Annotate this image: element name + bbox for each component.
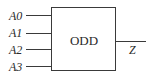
odd-parity-diagram: A0 A1 A2 A3 ODD Z [0,0,156,80]
block-label: ODD [51,34,117,47]
output-label-z: Z [129,44,136,56]
input-label-a0: A0 [9,10,22,22]
input-label-a3: A3 [9,61,22,73]
input-label-a2: A2 [9,44,22,56]
input-label-a1: A1 [9,27,22,39]
